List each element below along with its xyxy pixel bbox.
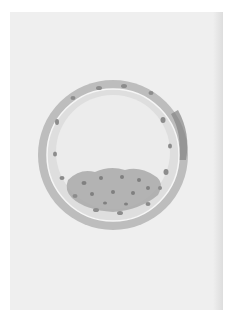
blastocyst-illustration [0,0,233,318]
